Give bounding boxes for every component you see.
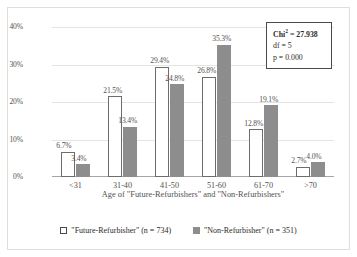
bar-value-label: 24.8% — [165, 74, 184, 83]
x-axis-tick-label: 31-40 — [99, 181, 146, 190]
bar-value-label: 19.1% — [259, 95, 278, 104]
legend-label: "Future-Refurbisher" (n = 734) — [71, 226, 171, 235]
y-axis-tick-label: 10% — [0, 135, 23, 144]
bar — [217, 45, 231, 177]
x-axis-line — [52, 176, 334, 177]
x-axis-title: Age of "Future-Refurbishers" and "Non-Re… — [52, 190, 334, 199]
y-axis-tick-label: 0% — [0, 172, 23, 181]
chi-square-value: Chi2 = 27.938 — [273, 27, 326, 40]
bar — [296, 167, 310, 177]
bar-value-label: 13.4% — [118, 116, 137, 125]
bar — [249, 129, 263, 177]
legend-swatch-icon — [193, 227, 200, 234]
bar-value-label: 21.5% — [103, 86, 122, 95]
bar-value-label: 26.8% — [197, 66, 216, 75]
degrees-of-freedom-value: df = 5 — [273, 40, 326, 52]
bar-value-label: 4.0% — [306, 152, 321, 161]
bar — [264, 105, 278, 177]
x-axis-tick-label: <31 — [52, 181, 99, 190]
x-axis-tick-label: >70 — [287, 181, 334, 190]
legend-swatch-icon — [60, 227, 67, 234]
x-axis-tick-label: 41-50 — [146, 181, 193, 190]
bar — [108, 96, 122, 177]
bar — [202, 77, 216, 178]
p-value: p = 0.000 — [273, 52, 326, 64]
bar-value-label: 35.3% — [212, 34, 231, 43]
bar — [311, 162, 325, 177]
bar — [123, 127, 137, 177]
y-axis-tick-label: 30% — [0, 60, 23, 69]
bar-value-label: 3.4% — [71, 154, 86, 163]
bar-value-label: 12.8% — [244, 119, 263, 128]
x-axis-tick-label: 51-60 — [193, 181, 240, 190]
gridline — [52, 140, 334, 141]
legend-item[interactable]: "Non-Refurbisher" (n = 351) — [193, 226, 297, 235]
legend-item[interactable]: "Future-Refurbisher" (n = 734) — [60, 226, 171, 235]
legend-label: "Non-Refurbisher" (n = 351) — [204, 226, 297, 235]
chart-legend: "Future-Refurbisher" (n = 734)"Non-Refur… — [7, 226, 350, 235]
bar — [170, 84, 184, 177]
y-axis-tick-label: 40% — [0, 22, 23, 31]
bar-value-label: 2.7% — [291, 156, 306, 165]
chart-figure: Relative frequency (%) 0%10%20%30%40% 6.… — [0, 0, 357, 257]
bar — [155, 67, 169, 177]
gridline — [52, 102, 334, 103]
x-axis-tick-label: 61-70 — [240, 181, 287, 190]
bar-value-label: 6.7% — [56, 141, 71, 150]
bar — [76, 164, 90, 177]
y-axis-tick-label: 20% — [0, 97, 23, 106]
bar-value-label: 29.4% — [150, 56, 169, 65]
statistics-annotation-box: Chi2 = 27.938 df = 5 p = 0.000 — [266, 22, 332, 69]
